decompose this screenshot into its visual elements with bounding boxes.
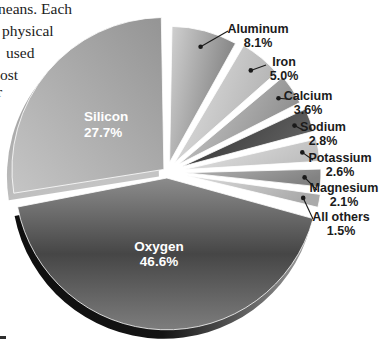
- slice-label-aluminum-pct: 8.1%: [244, 36, 273, 50]
- leader-dot-sodium: [292, 123, 297, 128]
- slice-label-magnesium-pct: 2.1%: [330, 195, 359, 209]
- cropped-paragraph: neans. Each physical used ost r: [0, 0, 120, 110]
- figure-canvas: neans. Each physical used ost r Aluminum…: [0, 0, 379, 342]
- cropped-text-line: r: [0, 83, 2, 101]
- slice-label-oxygen-pct: 46.6%: [140, 254, 178, 269]
- cropped-text-line: physical: [2, 22, 54, 40]
- leader-dot-iron: [249, 68, 254, 73]
- slice-label-sodium-name: Sodium: [300, 120, 346, 134]
- leader-dot-magnesium: [302, 175, 307, 180]
- leader-dot-all-others: [301, 196, 306, 201]
- slice-label-sodium-pct: 2.8%: [309, 134, 338, 148]
- slice-label-oxygen-name: Oxygen: [134, 239, 184, 254]
- slice-label-silicon-pct: 27.7%: [84, 125, 122, 140]
- slice-label-silicon-name: Silicon: [84, 109, 128, 124]
- cropped-text-fragment: [0, 336, 6, 339]
- cropped-text-line: neans. Each: [0, 0, 72, 18]
- slice-label-iron-pct: 5.0%: [270, 69, 299, 83]
- slice-label-iron-name: Iron: [272, 55, 296, 69]
- leader-dot-aluminum: [198, 44, 203, 49]
- slice-label-calcium-name: Calcium: [284, 89, 333, 103]
- slice-label-all-others-name: All others: [312, 210, 370, 224]
- slice-label-aluminum-name: Aluminum: [227, 22, 288, 36]
- slice-label-calcium-pct: 3.6%: [294, 103, 323, 117]
- slice-label-potassium-name: Potassium: [308, 151, 371, 165]
- cropped-text-line: used: [6, 44, 34, 62]
- cropped-text-line: ost: [0, 66, 18, 84]
- slice-label-magnesium-name: Magnesium: [310, 181, 379, 195]
- slice-label-all-others-pct: 1.5%: [327, 224, 356, 238]
- leader-dot-potassium: [300, 150, 305, 155]
- slice-label-potassium-pct: 2.6%: [326, 165, 355, 179]
- leader-dot-calcium: [276, 96, 281, 101]
